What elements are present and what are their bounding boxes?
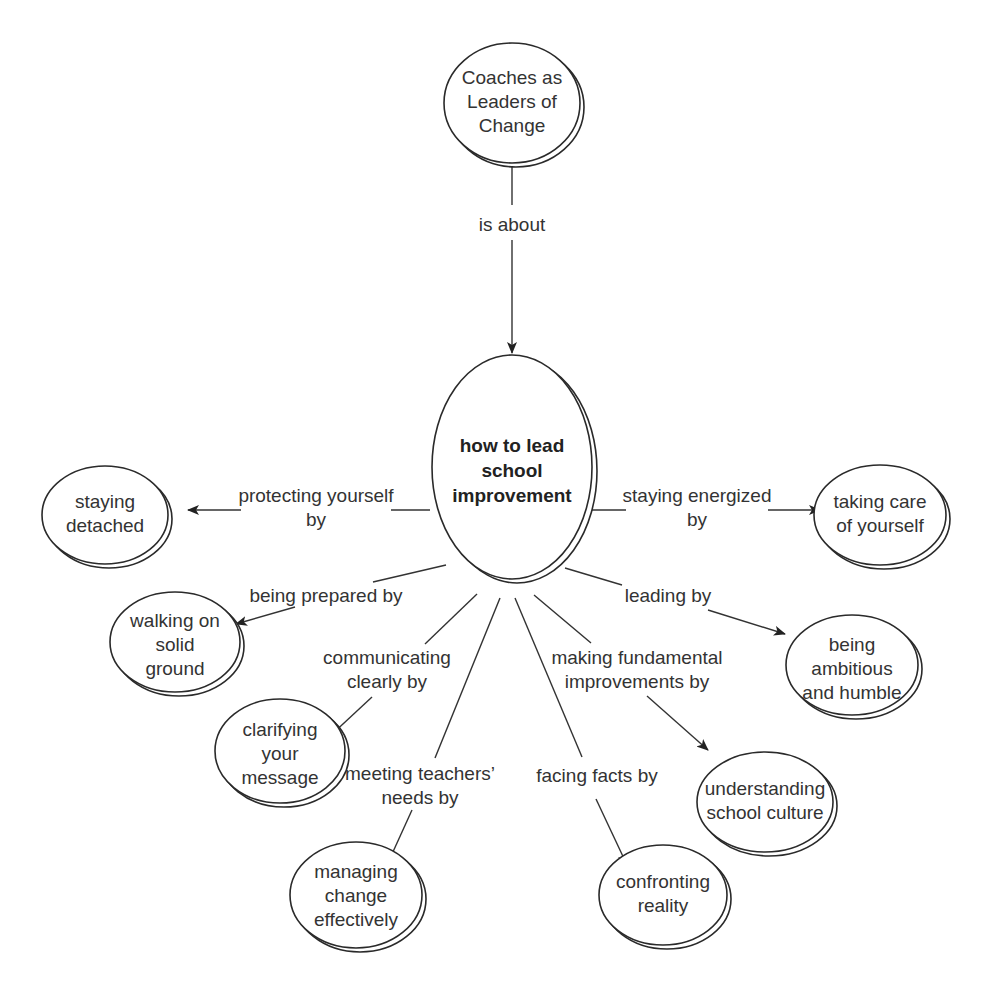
- node-confronting-reality: confronting reality: [599, 845, 731, 949]
- svg-text:your: your: [262, 743, 300, 764]
- node-walking-on-solid-ground: walking on solid ground: [110, 592, 244, 696]
- node-taking-care-of-yourself: taking care of yourself: [814, 465, 950, 569]
- svg-text:improvement: improvement: [452, 485, 572, 506]
- svg-text:clarifying: clarifying: [243, 719, 318, 740]
- edge-making-fundamental: making fundamental improvements by: [534, 595, 723, 750]
- svg-text:school culture: school culture: [706, 802, 823, 823]
- node-staying-detached: staying detached: [42, 466, 172, 568]
- node-how-to-lead-school-improvement: how to lead school improvement: [432, 355, 597, 583]
- svg-text:managing: managing: [314, 861, 397, 882]
- svg-text:Coaches as: Coaches as: [462, 67, 562, 88]
- node-understanding-school-culture: understanding school culture: [697, 752, 837, 856]
- svg-text:change: change: [325, 885, 387, 906]
- edge-label-teachers-line1: meeting teachers’: [345, 763, 495, 784]
- edge-label-energized-line2: by: [687, 509, 708, 530]
- edge-label-fundamental-line2: improvements by: [565, 671, 710, 692]
- edge-staying-energized: staying energized by: [587, 485, 820, 530]
- svg-text:school: school: [481, 460, 542, 481]
- svg-text:being: being: [829, 634, 876, 655]
- node-managing-change-effectively: managing change effectively: [290, 842, 426, 952]
- edge-label-energized-line1: staying energized: [623, 485, 772, 506]
- edge-label-facts: facing facts by: [536, 765, 658, 786]
- svg-text:how to lead: how to lead: [460, 435, 565, 456]
- edge-label-protecting-line2: by: [306, 509, 327, 530]
- svg-text:understanding: understanding: [705, 778, 825, 799]
- edge-label-leading: leading by: [625, 585, 712, 606]
- edge-label-prepared: being prepared by: [249, 585, 403, 606]
- svg-text:solid: solid: [155, 634, 194, 655]
- edge-label-fundamental-line1: making fundamental: [551, 647, 722, 668]
- svg-text:detached: detached: [66, 515, 144, 536]
- svg-text:ambitious: ambitious: [811, 658, 892, 679]
- edge-protecting-yourself: protecting yourself by: [188, 485, 430, 530]
- svg-text:effectively: effectively: [314, 909, 399, 930]
- svg-text:reality: reality: [638, 895, 689, 916]
- svg-text:confronting: confronting: [616, 871, 710, 892]
- edge-meeting-teachers: meeting teachers’ needs by: [345, 598, 500, 865]
- svg-text:taking care: taking care: [834, 491, 927, 512]
- node-coaches-as-leaders: Coaches as Leaders of Change: [444, 43, 584, 167]
- concept-map: is about protecting yourself by staying …: [0, 0, 1001, 1008]
- node-being-ambitious-and-humble: being ambitious and humble: [786, 615, 922, 719]
- svg-text:of yourself: of yourself: [836, 515, 924, 536]
- edge-label-is-about: is about: [479, 214, 546, 235]
- svg-text:ground: ground: [145, 658, 204, 679]
- edge-label-communicating-line2: clearly by: [347, 671, 428, 692]
- edge-being-prepared: being prepared by: [236, 565, 446, 624]
- edge-label-protecting-line1: protecting yourself: [238, 485, 394, 506]
- edge-label-communicating-line1: communicating: [323, 647, 451, 668]
- edge-is-about: is about: [479, 163, 546, 353]
- edge-facing-facts: facing facts by: [515, 598, 658, 865]
- svg-text:Change: Change: [479, 115, 546, 136]
- svg-text:staying: staying: [75, 491, 135, 512]
- svg-text:and humble: and humble: [802, 682, 901, 703]
- node-clarifying-your-message: clarifying your message: [215, 699, 349, 807]
- svg-text:message: message: [241, 767, 318, 788]
- edge-label-teachers-line2: needs by: [381, 787, 459, 808]
- svg-text:Leaders of: Leaders of: [467, 91, 558, 112]
- svg-text:walking on: walking on: [129, 610, 220, 631]
- edge-leading: leading by: [565, 568, 785, 634]
